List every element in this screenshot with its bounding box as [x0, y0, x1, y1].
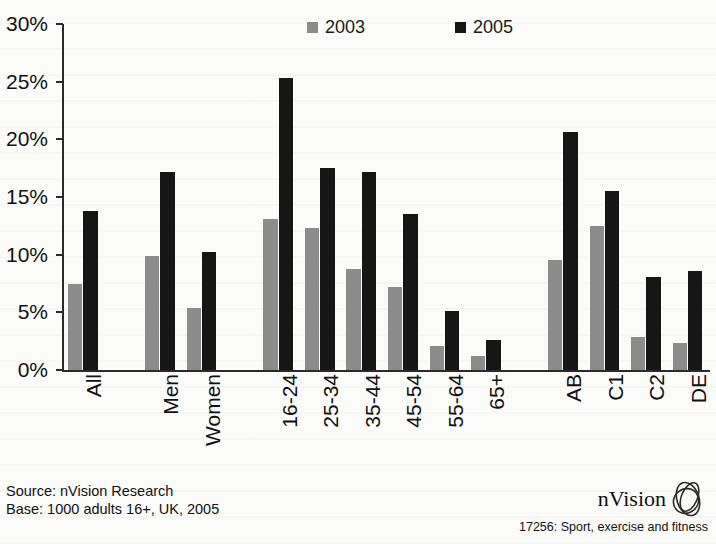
x-axis-label-65+: 65+ [486, 374, 507, 410]
brand-block: nVision 17256: Sport, exercise and fitne… [520, 480, 710, 540]
x-axis-line [62, 370, 710, 372]
source-line: Source: nVision Research [6, 482, 219, 500]
x-axis-label-Men: Men [160, 374, 181, 415]
brand-row: nVision [598, 480, 708, 518]
bar-2005-16-24 [279, 78, 293, 370]
bar-series-container [64, 24, 710, 370]
y-tick-label: 5% [18, 300, 48, 324]
source-note: Source: nVision Research Base: 1000 adul… [6, 482, 219, 518]
bar-2003-C1 [590, 226, 604, 370]
bar-2003-45-54 [388, 287, 402, 370]
plot-area: 0%5%10%15%20%25%30% [62, 24, 710, 370]
y-tick-label: 20% [6, 127, 48, 151]
y-tick-label: 10% [6, 243, 48, 267]
bar-2003-35-44 [346, 269, 360, 370]
bar-2003-55-64 [430, 346, 444, 370]
bar-2005-65+ [486, 340, 500, 370]
y-tick-mark [56, 254, 63, 256]
bar-2003-25-34 [305, 228, 319, 370]
y-tick-mark [56, 311, 63, 313]
bar-2003-All [68, 284, 82, 371]
bar-2005-DE [688, 271, 702, 370]
x-axis-label-C1: C1 [605, 374, 626, 401]
x-axis-label-All: All [83, 374, 104, 397]
y-tick-label: 15% [6, 185, 48, 209]
x-axis-label-C2: C2 [646, 374, 667, 401]
x-axis-label-DE: DE [688, 374, 709, 403]
brand-name: nVision [598, 486, 666, 512]
y-tick-mark [56, 369, 63, 371]
bar-2005-25-34 [320, 168, 334, 370]
bar-2003-Men [145, 256, 159, 370]
bar-2003-16-24 [263, 219, 277, 370]
x-axis-label-45-54: 45-54 [403, 374, 424, 428]
y-tick-mark [56, 23, 63, 25]
chart-figure: 2003 2005 0%5%10%15%20%25%30% AllMenWome… [0, 0, 716, 544]
x-axis-label-16-24: 16-24 [279, 374, 300, 428]
bar-2005-Women [202, 252, 216, 370]
bar-2003-AB [548, 260, 562, 370]
bar-2003-DE [673, 343, 687, 370]
y-tick-mark [56, 138, 63, 140]
x-axis-label-55-64: 55-64 [445, 374, 466, 428]
x-axis-label-35-44: 35-44 [362, 374, 383, 428]
x-axis-label-AB: AB [563, 374, 584, 402]
y-tick-label: 30% [6, 12, 48, 36]
bar-2005-AB [563, 132, 577, 370]
nvision-ellipse-logo-icon [668, 480, 708, 518]
bar-2005-45-54 [403, 214, 417, 370]
x-axis-label-Women: Women [202, 374, 223, 446]
bar-2003-Women [187, 308, 201, 370]
x-axis-label-25-34: 25-34 [320, 374, 341, 428]
base-line: Base: 1000 adults 16+, UK, 2005 [6, 500, 219, 518]
x-axis-category-labels: AllMenWomen16-2425-3435-4445-5455-6465+A… [62, 374, 710, 470]
brand-caption: 17256: Sport, exercise and fitness [519, 520, 708, 534]
y-tick-mark [56, 81, 63, 83]
bar-2005-C1 [605, 191, 619, 370]
y-tick-label: 25% [6, 70, 48, 94]
y-tick-label: 0% [18, 358, 48, 382]
bar-2005-C2 [646, 277, 660, 370]
bar-2005-35-44 [362, 172, 376, 370]
y-tick-mark [56, 196, 63, 198]
bar-2003-65+ [471, 356, 485, 370]
bar-2005-All [83, 211, 97, 370]
bar-2005-55-64 [445, 311, 459, 370]
bar-2005-Men [160, 172, 174, 370]
bar-2003-C2 [631, 337, 645, 370]
